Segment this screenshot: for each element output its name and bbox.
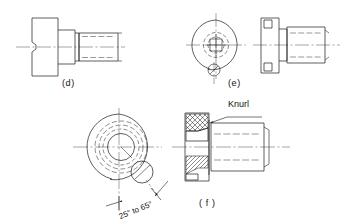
figure-f-shank-chamfer-top	[264, 127, 269, 130]
figure-e-head-circle-left	[192, 20, 216, 69]
figure-f-section-group	[172, 113, 290, 181]
figure-caption-e: (e)	[228, 78, 241, 88]
knurl-leader-arrow	[210, 117, 227, 123]
figure-e-shank-chamfer-top	[325, 30, 329, 33]
figure-caption-f: ( f )	[199, 198, 216, 208]
figure-d-group	[16, 18, 125, 76]
figure-caption-d: (d)	[62, 78, 75, 88]
knurl-label: Knurl	[228, 99, 249, 109]
drawing-sheet: (d) (e) ( f ) Knurl 25° to 65°	[0, 0, 350, 224]
figure-f-section-lower-step	[186, 174, 198, 180]
figure-f-section-hatch-lower	[186, 156, 208, 174]
figure-e-group	[186, 13, 340, 84]
figure-f-ball-detail	[131, 161, 153, 183]
figure-f-ball-leader	[146, 180, 158, 196]
technical-drawing-canvas	[0, 0, 350, 224]
figure-f-knurl-hatch-region	[186, 114, 208, 131]
figure-f-endview-group	[73, 108, 168, 212]
figure-e-side-head-notch-top	[264, 20, 272, 28]
figure-e-shank-chamfer-bottom	[325, 57, 329, 60]
figure-f-bore-radius-mark	[121, 147, 132, 158]
figure-f-angle-arrow-right	[155, 181, 168, 196]
figure-f-angle-arrow-left	[106, 202, 119, 206]
figure-f-angle-tick	[151, 188, 161, 200]
figure-f-shank-chamfer-bottom	[264, 164, 269, 167]
figure-e-side-head-notch-bottom	[264, 63, 272, 71]
